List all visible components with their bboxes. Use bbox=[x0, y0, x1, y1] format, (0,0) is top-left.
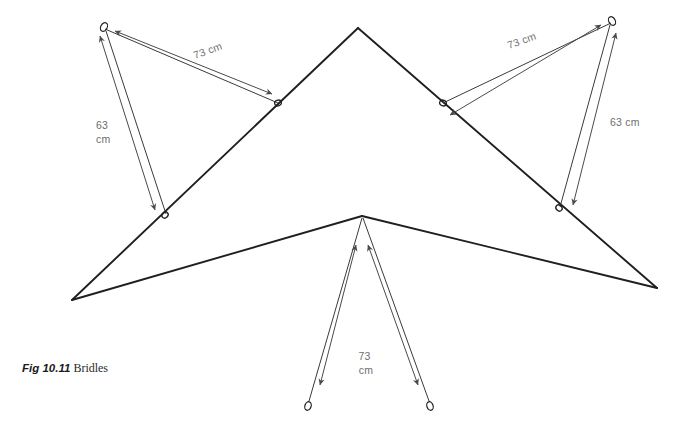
right-dimension-label-73: 73 cm bbox=[506, 30, 538, 51]
left-dimension-label-63: 63 cm bbox=[96, 119, 111, 145]
figure-caption: Fig 10.11Bridles bbox=[22, 361, 108, 376]
keel-bridle-leg-left bbox=[309, 218, 362, 401]
left-dimension-line-73 bbox=[115, 31, 272, 94]
left-lower-attachment-ring-icon bbox=[161, 211, 170, 220]
kite-right-trailing-edge bbox=[362, 216, 657, 288]
figure-title: Bridles bbox=[73, 361, 108, 375]
left-bridle-leg-lower bbox=[106, 31, 166, 214]
left-dimension-label-73: 73 cm bbox=[192, 40, 224, 61]
keel-right-loop-icon bbox=[426, 401, 435, 411]
keel-bridle-group: 73 cm bbox=[304, 218, 435, 411]
keel-73-unit: cm bbox=[359, 364, 373, 376]
figure-number: Fig 10.11 bbox=[22, 362, 70, 374]
kite-outline-group bbox=[72, 28, 657, 300]
figure-page: 73 cm 63 cm 73 cm 63 cm bbox=[0, 0, 691, 435]
right-bridle-group: 73 cm 63 cm bbox=[439, 15, 640, 212]
left-63-number: 63 bbox=[96, 119, 108, 131]
right-dimension-label-63: 63 cm bbox=[610, 116, 640, 128]
keel-73-number: 73 bbox=[358, 350, 370, 362]
keel-dimension-line-right bbox=[368, 245, 418, 385]
keel-dimension-line-left bbox=[320, 245, 356, 385]
kite-right-leading-edge bbox=[358, 28, 657, 288]
left-bridle-leg-upper bbox=[105, 29, 278, 103]
keel-dimension-label-73: 73 cm bbox=[358, 350, 373, 376]
keel-left-loop-icon bbox=[304, 401, 313, 411]
left-free-ring-icon bbox=[99, 21, 109, 32]
right-free-ring-icon bbox=[607, 15, 617, 26]
right-bridle-leg-lower bbox=[560, 25, 610, 207]
left-63-unit: cm bbox=[96, 133, 110, 145]
